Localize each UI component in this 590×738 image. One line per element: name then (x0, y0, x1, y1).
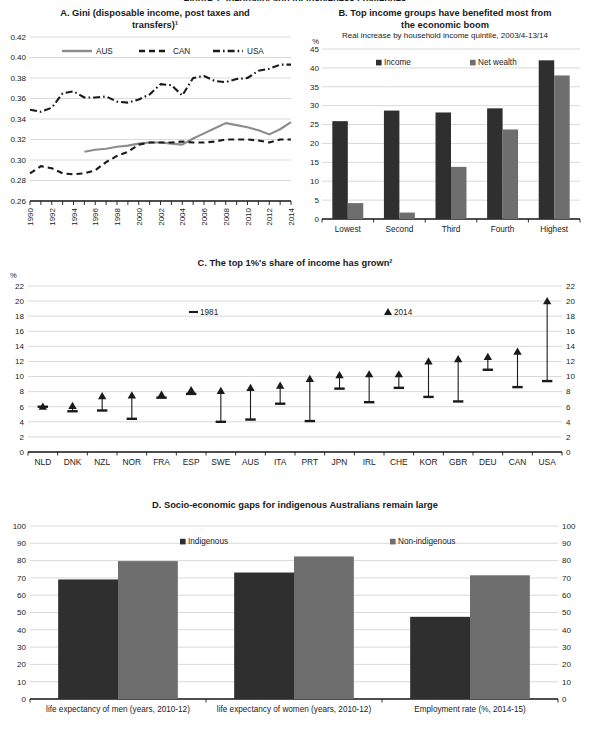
svg-text:70: 70 (562, 573, 571, 582)
svg-text:45: 45 (310, 45, 319, 54)
svg-text:22: 22 (566, 281, 575, 290)
svg-text:20: 20 (17, 660, 26, 669)
panel-a: A. Gini (disposable income, post taxes a… (0, 8, 300, 258)
svg-text:80: 80 (562, 556, 571, 565)
svg-text:2006: 2006 (200, 207, 209, 225)
svg-text:8: 8 (20, 387, 25, 396)
svg-text:6: 6 (20, 402, 25, 411)
svg-text:CAN: CAN (509, 457, 527, 467)
svg-text:PRT: PRT (302, 457, 319, 467)
svg-text:0.28: 0.28 (10, 176, 26, 185)
svg-text:NLD: NLD (34, 457, 51, 467)
svg-text:0.36: 0.36 (10, 94, 26, 103)
svg-text:KOR: KOR (419, 457, 437, 467)
svg-text:1996: 1996 (91, 207, 100, 225)
svg-text:60: 60 (17, 591, 26, 600)
svg-text:Fourth: Fourth (491, 225, 515, 234)
svg-text:20: 20 (310, 139, 319, 148)
svg-text:Indigenous: Indigenous (188, 537, 228, 546)
svg-text:Income: Income (384, 58, 411, 67)
svg-text:20: 20 (15, 296, 24, 305)
svg-text:10: 10 (310, 177, 319, 186)
svg-text:10: 10 (17, 677, 26, 686)
svg-text:90: 90 (17, 539, 26, 548)
svg-text:100: 100 (13, 521, 27, 530)
svg-text:Net wealth: Net wealth (478, 58, 517, 67)
svg-text:USA: USA (247, 47, 264, 56)
panel-b-chart: 051015202530354045%LowestSecondThirdFour… (300, 41, 590, 255)
svg-text:Third: Third (442, 225, 461, 234)
svg-text:USA: USA (539, 457, 557, 467)
svg-text:40: 40 (562, 625, 571, 634)
svg-text:0.30: 0.30 (10, 156, 26, 165)
svg-text:life expectancy of women (year: life expectancy of women (years, 2010-12… (217, 705, 372, 714)
panel-d-title: D. Socio-economic gaps for indigenous Au… (0, 500, 590, 512)
svg-text:0.38: 0.38 (10, 74, 26, 83)
svg-text:25: 25 (310, 120, 319, 129)
svg-text:90: 90 (562, 539, 571, 548)
svg-text:2010: 2010 (244, 207, 253, 225)
svg-text:14: 14 (15, 342, 24, 351)
svg-text:2004: 2004 (178, 207, 187, 225)
svg-text:8: 8 (566, 387, 571, 396)
svg-text:40: 40 (17, 625, 26, 634)
panel-b-title: B. Top income groups have benefited most… (314, 8, 576, 31)
svg-text:NZL: NZL (94, 457, 110, 467)
svg-text:0.32: 0.32 (10, 135, 26, 144)
svg-text:2: 2 (20, 432, 25, 441)
svg-text:1998: 1998 (113, 207, 122, 225)
svg-text:6: 6 (566, 402, 571, 411)
svg-text:5: 5 (315, 196, 320, 205)
svg-text:Non-indigenous: Non-indigenous (398, 537, 455, 546)
panel-d-chart: 0010102020303040405050606070708080909010… (0, 512, 590, 734)
svg-text:100: 100 (562, 521, 576, 530)
svg-text:70: 70 (17, 573, 26, 582)
svg-text:Lowest: Lowest (335, 225, 362, 234)
svg-text:GBR: GBR (449, 457, 467, 467)
svg-text:DEU: DEU (479, 457, 497, 467)
svg-text:DNK: DNK (64, 457, 82, 467)
svg-text:0: 0 (566, 447, 571, 456)
svg-text:ITA: ITA (274, 457, 287, 467)
svg-text:80: 80 (17, 556, 26, 565)
svg-text:18: 18 (15, 311, 24, 320)
svg-text:20: 20 (562, 660, 571, 669)
svg-text:10: 10 (566, 372, 575, 381)
svg-text:1992: 1992 (48, 207, 57, 225)
svg-text:12: 12 (566, 357, 575, 366)
svg-text:0.26: 0.26 (10, 197, 26, 206)
svg-text:NOR: NOR (123, 457, 142, 467)
panel-d: D. Socio-economic gaps for indigenous Au… (0, 500, 590, 738)
svg-text:Employment rate (%, 2014-15): Employment rate (%, 2014-15) (414, 705, 526, 714)
svg-text:2008: 2008 (222, 207, 231, 225)
figure-page: Figure 1. Inequality and inclusiveness c… (0, 0, 590, 738)
svg-text:JPN: JPN (332, 457, 348, 467)
svg-text:0.40: 0.40 (10, 53, 26, 62)
svg-text:Second: Second (386, 225, 414, 234)
svg-text:AUS: AUS (96, 47, 113, 56)
svg-text:50: 50 (17, 608, 26, 617)
svg-text:1994: 1994 (70, 207, 79, 225)
svg-text:%: % (312, 37, 319, 46)
svg-text:2000: 2000 (135, 207, 144, 225)
svg-text:22: 22 (15, 281, 24, 290)
svg-text:18: 18 (566, 311, 575, 320)
svg-text:1981: 1981 (200, 308, 219, 317)
panel-c-title: C. The top 1%'s share of income has grow… (0, 258, 590, 270)
svg-text:ESP: ESP (183, 457, 200, 467)
svg-text:0: 0 (562, 694, 567, 703)
svg-text:0: 0 (315, 215, 320, 224)
svg-text:Highest: Highest (540, 225, 568, 234)
panel-c: C. The top 1%'s share of income has grow… (0, 258, 590, 496)
svg-text:IRL: IRL (363, 457, 376, 467)
svg-text:CHE: CHE (390, 457, 408, 467)
svg-text:2014: 2014 (287, 207, 296, 225)
figure-cut-title: Figure 1. Inequality and inclusiveness c… (0, 0, 590, 1)
svg-text:14: 14 (566, 342, 575, 351)
svg-text:life expectancy of men (years,: life expectancy of men (years, 2010-12) (46, 705, 190, 714)
svg-text:0: 0 (20, 447, 25, 456)
svg-text:10: 10 (562, 677, 571, 686)
svg-text:4: 4 (566, 417, 571, 426)
svg-text:%: % (10, 271, 17, 280)
svg-text:2012: 2012 (265, 207, 274, 225)
